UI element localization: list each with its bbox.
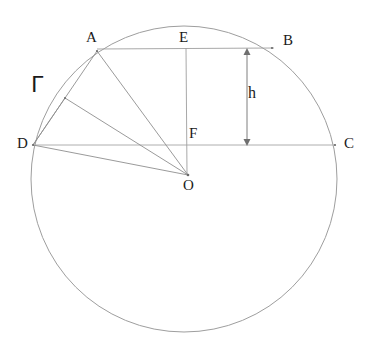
- point-label-a: A: [86, 30, 97, 45]
- vertex-markers: [32, 47, 336, 176]
- point-label-e: E: [179, 30, 188, 45]
- vertex-marker-a: [96, 50, 98, 52]
- vertex-marker-p: [64, 97, 66, 99]
- segment-dp: [33, 98, 65, 145]
- point-label-d: D: [17, 136, 28, 151]
- point-label-o: O: [183, 178, 194, 193]
- segment-oa: [97, 51, 188, 175]
- vertex-marker-d: [32, 144, 34, 146]
- vertex-marker-b: [271, 47, 273, 49]
- point-label-b: B: [283, 33, 293, 48]
- circle-label-gamma: Γ: [31, 74, 43, 96]
- vertex-marker-o: [187, 174, 190, 177]
- segment-ef: [186, 48, 187, 174]
- segment-chord-ab: [97, 48, 274, 49]
- height-label-h: h: [248, 85, 256, 101]
- geometry-diagram: A B C D E F O Γ h: [0, 0, 367, 353]
- point-label-f: F: [189, 126, 197, 141]
- vertex-marker-c: [334, 144, 336, 146]
- point-label-c: C: [344, 136, 354, 151]
